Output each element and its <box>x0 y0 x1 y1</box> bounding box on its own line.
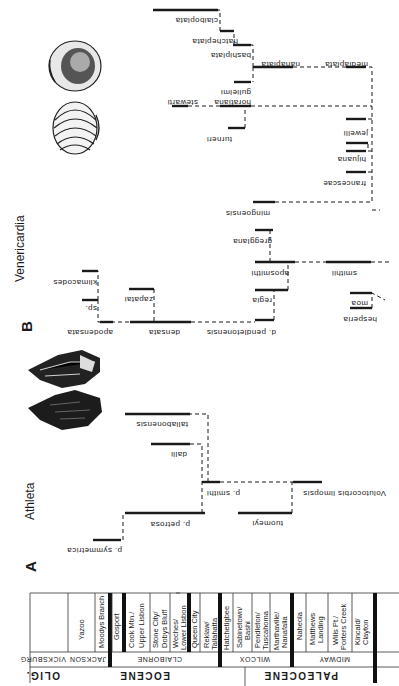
svg-text:Porters Creek: Porters Creek <box>339 603 348 650</box>
svg-text:Lower Lisbon: Lower Lisbon <box>179 605 188 650</box>
taxon-turneri: turneri <box>207 135 232 144</box>
taxon-densata: densata <box>149 328 180 337</box>
athleta-shell-image-2 <box>28 350 100 388</box>
taxon-claiboplata: claiboplata <box>175 16 218 25</box>
phylogeny-figure: Yazoo Moodys Branch Gosport Cook Mtn./ U… <box>0 0 399 686</box>
taxon-francescae: francescae <box>323 179 366 188</box>
taxon-gregglana: gregglana <box>233 237 272 246</box>
svg-text:Upper Lisbon: Upper Lisbon <box>137 603 146 648</box>
svg-text:Clayton: Clayton <box>361 620 370 645</box>
taxon-nanaplata: nanaplata <box>261 60 300 69</box>
venericardia-shell-image-1 <box>53 102 99 154</box>
svg-text:Tuscahoma: Tuscahoma <box>261 610 270 650</box>
formation-hatchetigbee: Hatchetigbee <box>222 606 231 650</box>
taxon-p-petrosa: p. petrosa <box>150 520 190 529</box>
taxon-sp: sp. <box>85 304 97 313</box>
panel-b-venericardia: B Venericardia <box>13 10 390 337</box>
panel-label-b: B <box>18 321 35 332</box>
taxon-smithii: smithii <box>332 269 357 278</box>
athleta-shell-image-1 <box>28 390 102 430</box>
group-claiborne: CLAIBORNE <box>137 656 182 663</box>
group-jackson: JACKSON <box>69 656 106 663</box>
svg-text:Bashi: Bashi <box>243 621 252 640</box>
taxon-aposmithi: aposmithi <box>251 269 289 278</box>
venericardia-shell-image-2 <box>49 41 101 91</box>
formation-queen-city: Queen City <box>190 610 199 648</box>
epoch-eocene: EOCENE <box>119 670 170 681</box>
formation-gosport: Gosport <box>112 612 121 640</box>
taxon-hatcheplata: hatcheplata <box>192 37 238 46</box>
formation-naheola: Naheola <box>295 611 304 640</box>
formation-yazoo: Yazoo <box>77 619 86 640</box>
panel-label-a: A <box>22 561 39 572</box>
svg-text:Tallahatta: Tallahatta <box>210 617 219 650</box>
taxon-dalli: dalli <box>171 450 187 459</box>
taxon-d-pendletonensis: d. pendletonensis <box>206 328 276 337</box>
panel-a-athleta: A Athleta p. symmetrica p. petrosa p. sm… <box>22 350 386 572</box>
taxon-p-symmetrica: p. symmetrica <box>67 546 122 555</box>
taxon-horatiana: horatiana <box>214 98 251 107</box>
taxon-tallabonensis: tallabonensis <box>136 420 188 429</box>
taxon-apodensata: apodensata <box>67 328 113 337</box>
taxon-jewelli: jewelli <box>343 129 369 138</box>
formation-cook-mtn: Cook Mtn./ <box>127 611 136 648</box>
genus-label-athleta: Athleta <box>23 482 37 520</box>
epoch-paleocene: PALEOCENE <box>263 670 338 681</box>
svg-text:Nanafalia: Nanafalia <box>280 615 289 648</box>
genus-label-venericardia: Venericardia <box>13 215 27 282</box>
taxon-moa: moa <box>351 299 368 308</box>
taxon-hesperia: hesperia <box>343 315 377 324</box>
taxon-regia: regia <box>252 296 272 305</box>
taxon-zapatai: zapatai <box>124 295 153 304</box>
taxon-gulielmi: gulielmi <box>221 88 251 97</box>
stratigraphic-column: Yazoo Moodys Branch Gosport Cook Mtn./ U… <box>20 593 399 686</box>
epoch-olig: OLIG. <box>25 670 60 681</box>
taxon-klimacodes: klimacodes <box>53 278 97 287</box>
group-wilcox: WILCOX <box>239 656 270 663</box>
taxon-hijuana: hijuana <box>337 155 366 164</box>
formation-stone-city: Stone City/ <box>151 610 160 648</box>
taxon-mediaplata: mediaplata <box>325 60 368 69</box>
taxon-bashiplata: bashiplata <box>210 51 251 60</box>
taxon-mingoensis: mingoensis <box>226 209 270 218</box>
taxon-tuomeyi: tuomeyi <box>252 519 283 528</box>
group-vicksburg: VICKSBURG <box>20 656 66 663</box>
taxon-p-smithi: p. smithi <box>207 489 240 498</box>
svg-text:Landing: Landing <box>316 616 325 643</box>
svg-text:Dobys Bluff: Dobys Bluff <box>160 609 169 648</box>
taxon-stewarti: stewarti <box>167 98 198 107</box>
taxon-volutocorbis-limopsis: Volutocorbis limopsis <box>303 489 386 498</box>
group-midway: MIDWAY <box>319 656 350 663</box>
formation-moodys-branch: Moodys Branch <box>97 596 106 648</box>
